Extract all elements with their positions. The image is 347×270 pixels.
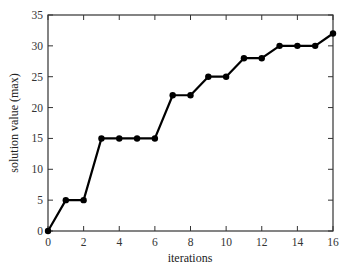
x-axis-label: iterations — [168, 251, 213, 265]
x-tick-label: 0 — [45, 236, 51, 248]
x-tick-label: 4 — [116, 236, 122, 248]
data-point-marker — [205, 74, 211, 80]
data-point-marker — [187, 92, 193, 98]
y-tick-label: 35 — [32, 9, 44, 21]
series-line — [48, 34, 333, 231]
data-point-marker — [152, 135, 158, 141]
data-point-marker — [134, 135, 140, 141]
data-point-marker — [330, 30, 336, 36]
y-tick-label: 25 — [32, 71, 44, 83]
x-tick-label: 12 — [256, 236, 268, 248]
y-tick-label: 20 — [32, 102, 44, 114]
data-point-marker — [276, 43, 282, 49]
y-tick-label: 5 — [37, 194, 43, 206]
data-series — [45, 30, 336, 234]
data-point-marker — [169, 92, 175, 98]
data-point-marker — [259, 55, 265, 61]
x-tick-label: 6 — [152, 236, 158, 248]
axes-frame — [48, 15, 333, 231]
x-tick-label: 2 — [81, 236, 87, 248]
line-chart: 024681012141605101520253035 iterations s… — [0, 0, 347, 270]
y-tick-label: 15 — [32, 132, 44, 144]
data-point-marker — [294, 43, 300, 49]
x-tick-label: 8 — [188, 236, 194, 248]
x-tick-label: 14 — [292, 236, 304, 248]
data-point-marker — [116, 135, 122, 141]
y-axis-label: solution value (max) — [7, 73, 21, 172]
data-point-marker — [63, 197, 69, 203]
data-point-marker — [98, 135, 104, 141]
y-tick-label: 30 — [32, 40, 44, 52]
data-point-marker — [45, 228, 51, 234]
y-tick-label: 0 — [37, 225, 43, 237]
data-point-marker — [80, 197, 86, 203]
y-tick-label: 10 — [32, 163, 44, 175]
data-point-marker — [223, 74, 229, 80]
data-point-marker — [241, 55, 247, 61]
x-tick-label: 16 — [327, 236, 339, 248]
data-point-marker — [312, 43, 318, 49]
x-tick-label: 10 — [220, 236, 232, 248]
